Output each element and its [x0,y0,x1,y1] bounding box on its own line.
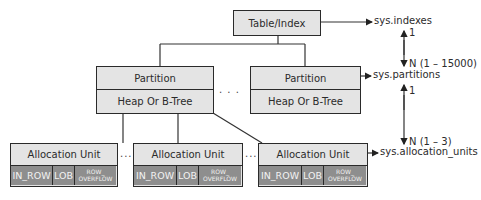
in-row-cell: IN_ROW [259,166,302,185]
partition-label: Partition [251,67,360,90]
allocation-unit-box-1: Allocation Unit IN_ROW LOB ROW_ OVERFLOW [10,143,118,187]
lob-cell: LOB [302,166,324,185]
allocation-unit-box-2: Allocation Unit IN_ROW LOB ROW_ OVERFLOW [133,143,243,187]
allocation-unit-label: Allocation Unit [259,144,367,166]
row-overflow-cell: ROW_ OVERFLOW [75,166,116,185]
cardinality-many-partitions: N (1 – 15000) [409,58,477,69]
heap-or-btree-label: Heap Or B-Tree [251,90,360,113]
lob-cell: LOB [177,166,199,185]
allocation-unit-label: Allocation Unit [11,144,117,166]
row-overflow-cell: ROW_ OVERFLOW [324,166,366,185]
sys-partitions-label: sys.partitions [373,69,440,80]
cardinality-many-allocation-units: N (1 – 3) [409,136,452,147]
table-index-label: Table/Index [234,11,320,35]
sys-allocation-units-label: sys.allocation_units [380,146,478,157]
in-row-cell: IN_ROW [134,166,177,185]
partition-box-right: Partition Heap Or B-Tree [250,66,361,114]
table-index-box: Table/Index [233,10,321,36]
heap-or-btree-label: Heap Or B-Tree [97,90,213,113]
partition-box-left: Partition Heap Or B-Tree [96,66,214,114]
lob-cell: LOB [53,166,75,185]
cardinality-one-indexes: 1 [409,27,415,38]
partition-label: Partition [97,67,213,90]
in-row-cell: IN_ROW [11,166,53,185]
allocation-ellipsis-2: ... [245,148,258,159]
row-overflow-cell: ROW_ OVERFLOW [199,166,241,185]
allocation-unit-box-3: Allocation Unit IN_ROW LOB ROW_ OVERFLOW [258,143,368,187]
allocation-ellipsis-1: ... [120,148,133,159]
cardinality-one-partitions: 1 [409,85,415,96]
allocation-unit-label: Allocation Unit [134,144,242,166]
sys-indexes-label: sys.indexes [374,15,432,26]
partitions-ellipsis: . . . [219,84,240,95]
